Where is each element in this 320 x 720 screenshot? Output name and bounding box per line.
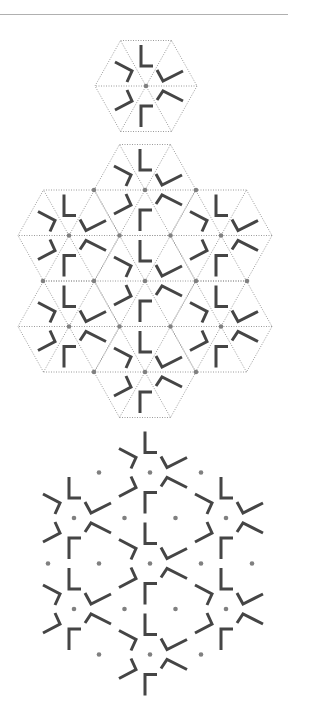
- upper-left-v-mark: [38, 303, 55, 323]
- vertex-dot: [148, 652, 153, 657]
- lower-right-v-mark: [85, 523, 111, 533]
- upper-left-v-mark: [119, 449, 136, 469]
- vertex-dot: [143, 188, 148, 193]
- lower-right-v-mark: [161, 569, 187, 579]
- grid-line: [171, 145, 197, 191]
- top-l-mark: [141, 45, 153, 66]
- upper-left-v-mark: [114, 257, 131, 277]
- lower-right-v-mark: [80, 332, 106, 342]
- upper-right-v-mark: [232, 220, 258, 231]
- vertex-dot: [250, 561, 255, 566]
- upper-left-v-mark: [195, 494, 212, 514]
- lower-right-v-mark: [156, 377, 182, 387]
- bottom-l-mark: [216, 347, 228, 368]
- bottom-l-mark: [145, 493, 157, 514]
- upper-right-v-mark: [80, 220, 106, 231]
- vertex-dot: [194, 279, 199, 284]
- vertex-dot: [92, 279, 97, 284]
- bottom-l-mark: [221, 629, 233, 650]
- top-l-mark: [145, 523, 157, 544]
- upper-left-v-mark: [195, 585, 212, 605]
- upper-right-v-mark: [80, 311, 106, 322]
- lower-right-v-mark: [237, 614, 263, 624]
- vertex-dot: [224, 516, 229, 521]
- upper-left-v-mark: [114, 166, 131, 186]
- vertex-dot: [97, 652, 102, 657]
- vertex-dot: [117, 233, 122, 238]
- grid-line: [247, 236, 273, 282]
- upper-right-v-mark: [161, 457, 187, 468]
- top-l-mark: [140, 331, 152, 352]
- lower-left-v-mark: [115, 90, 132, 110]
- upper-right-v-mark: [85, 593, 111, 604]
- upper-left-v-mark: [190, 212, 207, 232]
- grid-line: [172, 86, 198, 132]
- lower-right-v-mark: [232, 241, 258, 251]
- bottom-l-mark: [221, 538, 233, 559]
- upper-right-v-mark: [157, 70, 183, 81]
- top-l-mark: [140, 240, 152, 261]
- upper-left-v-mark: [190, 303, 207, 323]
- grid-line: [172, 41, 198, 87]
- vertex-dot: [148, 561, 153, 566]
- lower-left-v-mark: [119, 659, 136, 679]
- grid-line: [247, 281, 273, 327]
- upper-left-v-mark: [119, 631, 136, 651]
- lower-left-v-mark: [38, 240, 55, 260]
- bottom-l-mark: [140, 301, 152, 322]
- grid-line: [171, 372, 197, 418]
- lower-left-v-mark: [43, 522, 60, 542]
- top-l-mark: [221, 568, 233, 589]
- bottom-l-mark: [145, 584, 157, 605]
- upper-right-v-mark: [85, 502, 111, 513]
- upper-right-v-mark: [161, 639, 187, 650]
- vertex-dot: [122, 607, 127, 612]
- lower-right-v-mark: [80, 241, 106, 251]
- vertex-dot: [168, 233, 173, 238]
- bottom-l-mark: [145, 675, 157, 696]
- upper-right-v-mark: [237, 502, 263, 513]
- vertex-dot: [72, 607, 77, 612]
- upper-right-v-mark: [232, 311, 258, 322]
- vertex-dot: [97, 561, 102, 566]
- vertex-dot: [117, 324, 122, 329]
- vertex-dot: [168, 324, 173, 329]
- vertex-dot: [67, 233, 72, 238]
- single-hexagon-tile: [95, 41, 197, 132]
- lower-left-v-mark: [38, 331, 55, 351]
- upper-left-v-mark: [114, 348, 131, 368]
- lower-left-v-mark: [190, 240, 207, 260]
- upper-right-v-mark: [161, 548, 187, 559]
- top-l-mark: [64, 195, 76, 216]
- lower-left-v-mark: [114, 194, 131, 214]
- upper-left-v-mark: [43, 494, 60, 514]
- bottom-l-mark: [64, 347, 76, 368]
- top-l-mark: [145, 614, 157, 635]
- vertex-dot: [173, 607, 178, 612]
- vertex-dot: [41, 279, 46, 284]
- upper-right-v-mark: [156, 356, 182, 367]
- bottom-l-mark: [69, 538, 81, 559]
- top-l-mark: [64, 286, 76, 307]
- vertex-dot: [143, 370, 148, 375]
- vertex-dot: [173, 516, 178, 521]
- lower-left-v-mark: [119, 477, 136, 497]
- vertex-dot: [245, 279, 250, 284]
- upper-right-v-mark: [237, 593, 263, 604]
- upper-right-v-mark: [156, 174, 182, 185]
- grid-line: [247, 327, 273, 373]
- lower-right-v-mark: [232, 332, 258, 342]
- vertex-dot: [92, 188, 97, 193]
- lower-left-v-mark: [114, 376, 131, 396]
- lower-right-v-mark: [237, 523, 263, 533]
- vertex-dot: [148, 470, 153, 475]
- top-l-mark: [145, 432, 157, 453]
- lower-left-v-mark: [190, 331, 207, 351]
- vertex-dot: [97, 470, 102, 475]
- vertex-dot: [219, 324, 224, 329]
- lower-left-v-mark: [119, 568, 136, 588]
- bottom-l-mark: [64, 256, 76, 277]
- grid-line: [247, 190, 273, 236]
- lower-left-v-mark: [114, 285, 131, 305]
- bottom-l-mark: [69, 629, 81, 650]
